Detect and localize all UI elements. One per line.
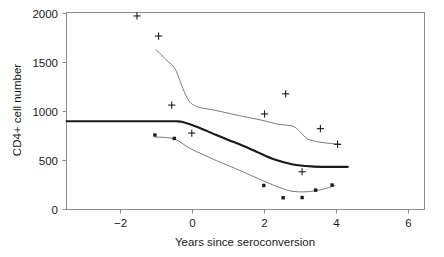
- plus-marker: [188, 129, 195, 136]
- marker-layer: [133, 12, 341, 199]
- series-lower-smoothed-curve: [155, 137, 335, 192]
- x-tick-label-6: 6: [405, 217, 411, 229]
- y-tick-label-0: 0: [52, 204, 58, 216]
- y-axis-ticks: [63, 14, 67, 210]
- plus-marker: [168, 102, 175, 109]
- plus-marker: [317, 125, 324, 132]
- x-tick-label-0: 0: [189, 217, 195, 229]
- square-marker: [330, 183, 333, 186]
- x-axis-title: Years since seroconversion: [175, 236, 315, 248]
- square-marker: [281, 196, 284, 199]
- square-marker: [314, 188, 317, 191]
- y-tick-label-1500: 1500: [32, 57, 58, 69]
- y-tick-label-500: 500: [39, 155, 58, 167]
- y-tick-label-2000: 2000: [32, 8, 58, 20]
- y-axis-tick-labels: 2000 1500 1000 500 0: [32, 8, 58, 216]
- plot-border: [67, 13, 425, 210]
- plus-marker: [261, 110, 268, 117]
- square-marker: [300, 196, 303, 199]
- series-layer: [67, 50, 348, 192]
- plus-marker: [334, 141, 341, 148]
- chart-figure: 2000 1500 1000 500 0 −2 0 2 4 6 Years si…: [0, 0, 444, 257]
- x-tick-label-minus2: −2: [114, 217, 127, 229]
- plus-marker: [133, 12, 140, 19]
- x-axis-ticks: [121, 210, 409, 214]
- square-marker: [262, 184, 265, 187]
- plus-marker: [282, 90, 289, 97]
- x-tick-label-4: 4: [333, 217, 340, 229]
- x-axis-tick-labels: −2 0 2 4 6: [114, 217, 412, 229]
- square-marker: [173, 137, 176, 140]
- cd4-scatter-line-chart: 2000 1500 1000 500 0 −2 0 2 4 6 Years si…: [0, 0, 444, 257]
- plus-marker: [299, 168, 306, 175]
- y-axis-title: CD4+ cell number: [11, 64, 23, 157]
- series-population-mean-curve: [67, 121, 348, 167]
- series-upper-smoothed-curve: [156, 50, 340, 145]
- y-tick-label-1000: 1000: [32, 106, 58, 118]
- plot-frame: [67, 13, 425, 210]
- x-tick-label-2: 2: [261, 217, 267, 229]
- plus-marker: [155, 32, 162, 39]
- square-marker: [153, 133, 156, 136]
